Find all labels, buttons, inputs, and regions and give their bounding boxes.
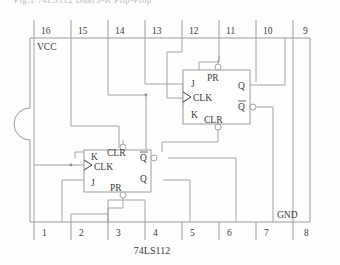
ff-lower[interactable]: K CLK J CLR PR Q Q xyxy=(84,144,157,198)
wire-pin15 xyxy=(71,38,119,148)
pin-ticks xyxy=(34,20,293,240)
pin-label-7: 7 xyxy=(264,228,269,238)
pin-label-10: 10 xyxy=(263,26,273,36)
pin-label-11: 11 xyxy=(226,26,235,36)
q-bubble-icon xyxy=(151,155,157,161)
ff-upper-clear-label: CLR xyxy=(204,115,223,125)
vcc-label: VCC xyxy=(37,42,57,52)
wire-pin13 xyxy=(145,38,183,107)
top-pin-labels: 16 15 14 13 12 11 10 9 xyxy=(41,26,308,36)
pin-label-16: 16 xyxy=(41,26,51,36)
junction-dot xyxy=(70,164,73,167)
ff-lower-qbar-label: Q xyxy=(140,174,147,184)
pin-label-6: 6 xyxy=(227,228,232,238)
junction-dot xyxy=(145,94,148,97)
pin-label-15: 15 xyxy=(78,26,88,36)
gnd-label: GND xyxy=(277,210,298,220)
pin-label-13: 13 xyxy=(152,26,162,36)
pin-label-14: 14 xyxy=(115,26,125,36)
ic-pinout-schematic: J CLK K PR CLR Q Q K CLK J CLR PR Q xyxy=(0,0,340,265)
wire-upper-q-out xyxy=(250,38,285,85)
preset-bubble-icon xyxy=(215,64,221,70)
ff-lower-preset-label: PR xyxy=(110,183,122,193)
pin-label-9: 9 xyxy=(303,26,308,36)
pin-label-8: 8 xyxy=(304,228,309,238)
bottom-pin-labels: 1 2 3 4 5 6 7 8 xyxy=(42,228,309,238)
ff-lower-q-label: Q xyxy=(140,153,147,163)
ff-upper-qbar-label: Q xyxy=(238,102,245,112)
wire-pin14 xyxy=(108,38,146,151)
wire-upper-qbar-out xyxy=(256,107,273,222)
part-name-caption: 74LS112 xyxy=(134,245,170,256)
wire-lower-j-in xyxy=(62,180,84,222)
pin-label-1: 1 xyxy=(42,228,47,238)
pin-label-2: 2 xyxy=(79,228,84,238)
package-notch-icon xyxy=(14,108,30,140)
ff-upper[interactable]: J CLK K PR CLR Q Q xyxy=(183,64,256,130)
qbar-bubble-icon xyxy=(250,104,256,110)
wire-lower-q-out xyxy=(168,158,236,222)
pin-label-3: 3 xyxy=(116,228,121,238)
wire-upper-clear-stub xyxy=(162,124,218,152)
wire-pin2 xyxy=(71,214,108,222)
wire-pin3 xyxy=(108,200,145,222)
package-outline xyxy=(14,38,310,222)
wire-lower-qbar-out xyxy=(163,180,190,222)
pinout-diagram-figure: Fig.1 74LS112 Dual J-K Flip-Flop xyxy=(0,0,340,265)
ff-upper-q-label: Q xyxy=(238,81,245,91)
ff-upper-clk-label: CLK xyxy=(193,93,212,103)
internal-wiring xyxy=(34,38,293,222)
ff-lower-clear-label: CLR xyxy=(107,148,126,158)
ff-upper-j-label: J xyxy=(191,79,195,89)
ff-upper-preset-label: PR xyxy=(207,73,219,83)
pin-label-12: 12 xyxy=(189,26,199,36)
ff-lower-clk-label: CLK xyxy=(94,162,113,172)
ff-lower-k-label: K xyxy=(91,152,98,162)
ff-lower-j-label: J xyxy=(91,178,95,188)
pin-label-4: 4 xyxy=(153,228,158,238)
ff-upper-k-label: K xyxy=(191,110,198,120)
pin-label-5: 5 xyxy=(190,228,195,238)
